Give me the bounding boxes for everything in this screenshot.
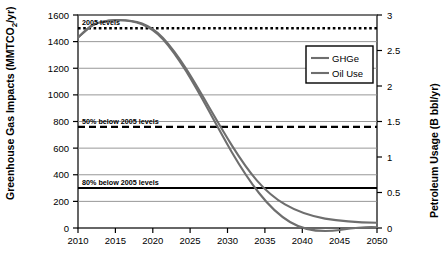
annotation-50-below: 50% below 2005 levels <box>82 117 159 126</box>
ytick-label-800: 800 <box>53 116 69 127</box>
right-axis-title-text: Petroleum Usage (B bbl/yr) <box>428 83 440 218</box>
xtick-label-2045: 2045 <box>329 235 350 246</box>
legend-label-oil-use: Oil Use <box>332 68 363 79</box>
xtick-label-2035: 2035 <box>254 235 275 246</box>
chart-figure: Greenhouse Gas Impacts (MMTCO2/yr) Petro… <box>0 0 446 266</box>
ytick-label-1000: 1000 <box>48 89 69 100</box>
ytick-label-1400: 1400 <box>48 36 69 47</box>
rtick-label-1p5: 1.5 <box>387 116 400 127</box>
annotation-80-below: 80% below 2005 levels <box>82 178 159 187</box>
ytick-label-1200: 1200 <box>48 63 69 74</box>
x-axis-tick-labels: 2010 2015 2020 2025 2030 2035 2040 2045 … <box>67 235 387 246</box>
xtick-label-2025: 2025 <box>180 235 201 246</box>
rtick-label-2p5: 2.5 <box>387 45 400 56</box>
annotation-2005-levels: 2005 levels <box>82 18 120 27</box>
right-axis-title: Petroleum Usage (B bbl/yr) <box>428 83 440 218</box>
xtick-label-2020: 2020 <box>142 235 163 246</box>
rtick-label-1: 1 <box>387 152 392 163</box>
chart-svg: Greenhouse Gas Impacts (MMTCO2/yr) Petro… <box>0 0 446 266</box>
ytick-label-600: 600 <box>53 143 69 154</box>
ytick-label-200: 200 <box>53 196 69 207</box>
rtick-label-3: 3 <box>387 10 392 21</box>
ytick-label-400: 400 <box>53 169 69 180</box>
rtick-label-2: 2 <box>387 81 392 92</box>
xtick-label-2050: 2050 <box>366 235 387 246</box>
ytick-label-1600: 1600 <box>48 10 69 21</box>
xtick-label-2015: 2015 <box>105 235 126 246</box>
ytick-label-0: 0 <box>64 223 69 234</box>
xtick-label-2030: 2030 <box>217 235 238 246</box>
legend-label-ghge: GHGe <box>332 53 359 64</box>
xtick-label-2010: 2010 <box>67 235 88 246</box>
xtick-label-2040: 2040 <box>292 235 313 246</box>
chart-legend[interactable]: GHGe Oil Use <box>306 46 373 83</box>
rtick-label-0p5: 0.5 <box>387 187 400 198</box>
rtick-label-0: 0 <box>387 223 392 234</box>
